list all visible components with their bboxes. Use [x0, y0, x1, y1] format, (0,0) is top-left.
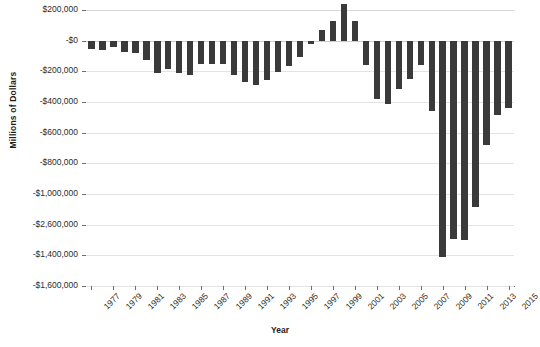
bar: [176, 41, 182, 74]
bar: [308, 41, 314, 44]
bar: [165, 41, 171, 69]
x-tick-label: 2011: [475, 291, 495, 311]
plot-area: [86, 10, 514, 286]
bar: [275, 41, 281, 72]
x-tick-label: 2005: [409, 291, 429, 311]
bar: [330, 21, 336, 40]
y-tick-label: -$400,000: [40, 96, 78, 106]
bar: [154, 41, 160, 73]
x-tick-label: 1995: [300, 291, 320, 311]
x-tick-mark: [245, 286, 246, 290]
bar: [341, 4, 347, 40]
x-tick-mark: [201, 286, 202, 290]
x-tick-label: 1993: [278, 291, 298, 311]
x-tick-mark: [289, 286, 290, 290]
bar: [450, 41, 456, 239]
x-tick-label: 1983: [168, 291, 188, 311]
x-tick-mark: [267, 286, 268, 290]
bar: [231, 41, 237, 75]
bar: [88, 41, 94, 49]
x-tick-label: 1985: [190, 291, 210, 311]
bar: [99, 41, 105, 50]
bar: [121, 41, 127, 52]
bar: [297, 41, 303, 57]
gridline: [86, 286, 514, 287]
x-tick-mark: [509, 286, 510, 290]
x-tick-label: 1981: [146, 291, 166, 311]
x-tick-label: 2003: [387, 291, 407, 311]
x-axis-title-text: Year: [271, 325, 289, 335]
gridline: [86, 10, 514, 11]
x-tick-mark: [377, 286, 378, 290]
y-tick-label: -$800,000: [40, 157, 78, 167]
bar: [264, 41, 270, 80]
x-tick-label: 1999: [343, 291, 363, 311]
x-tick-mark: [157, 286, 158, 290]
bar: [429, 41, 435, 111]
x-tick-mark: [355, 286, 356, 290]
bar: [286, 41, 292, 66]
bar: [220, 41, 226, 64]
x-tick-mark: [333, 286, 334, 290]
x-tick-mark: [421, 286, 422, 290]
y-tick-label: -$1,600,000: [33, 280, 78, 290]
x-tick-label: 2015: [519, 291, 539, 311]
bar: [407, 41, 413, 79]
bar: [505, 41, 511, 108]
bar: [374, 41, 380, 99]
bar: [352, 21, 358, 41]
y-tick-label: -$1,400,000: [33, 249, 78, 259]
x-tick-label: 1979: [124, 291, 144, 311]
y-tick-label: -$1,000,000: [33, 188, 78, 198]
x-tick-label: 2007: [431, 291, 451, 311]
x-tick-label: 1989: [234, 291, 254, 311]
x-tick-label: 2009: [453, 291, 473, 311]
bar: [483, 41, 489, 145]
bar: [418, 41, 424, 66]
x-tick-mark: [443, 286, 444, 290]
x-tick-mark: [487, 286, 488, 290]
x-tick-mark: [113, 286, 114, 290]
x-tick-label: 2013: [497, 291, 517, 311]
bar: [110, 41, 116, 47]
bar: [132, 41, 138, 53]
y-tick-label: -$2,600,000: [33, 219, 78, 229]
bar: [396, 41, 402, 90]
gridline: [86, 255, 514, 256]
bar: [242, 41, 248, 82]
bar: [253, 41, 259, 85]
x-tick-label: 1977: [102, 291, 122, 311]
bar: [363, 41, 369, 65]
bar: [198, 41, 204, 64]
x-tick-mark: [179, 286, 180, 290]
x-tick-mark: [135, 286, 136, 290]
x-tick-mark: [223, 286, 224, 290]
y-axis-title: Millions of Dollars: [8, 45, 18, 175]
bar: [494, 41, 500, 115]
x-tick-label: 2001: [365, 291, 385, 311]
bar: [319, 30, 325, 41]
x-tick-mark: [91, 286, 92, 290]
bar: [385, 41, 391, 104]
x-tick-mark: [399, 286, 400, 290]
y-tick-label: -$200,000: [40, 65, 78, 75]
bar: [187, 41, 193, 75]
bar: [472, 41, 478, 208]
x-tick-mark: [311, 286, 312, 290]
bar: [209, 41, 215, 65]
y-tick-label: -$0: [66, 35, 78, 45]
y-tick-label: -$600,000: [40, 127, 78, 137]
bar: [439, 41, 445, 258]
x-tick-mark: [465, 286, 466, 290]
x-tick-label: 1987: [212, 291, 232, 311]
bar: [461, 41, 467, 240]
x-tick-label: 1997: [322, 291, 342, 311]
y-tick-label: $200,000: [43, 4, 78, 14]
x-axis-title: Year: [0, 325, 522, 335]
bar: [143, 41, 149, 61]
x-tick-label: 1991: [256, 291, 276, 311]
